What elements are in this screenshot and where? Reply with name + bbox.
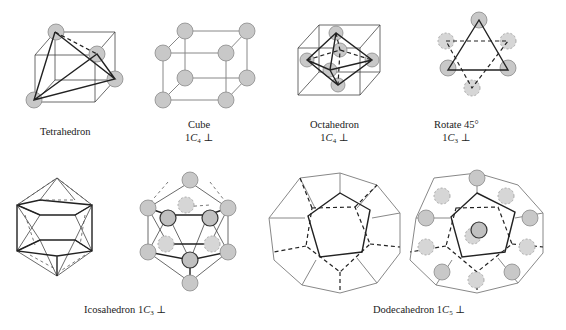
dodecahedron-diagram	[269, 173, 400, 293]
dodecahedron-label: Dodecahedron 1C5 ⊥	[373, 303, 465, 320]
symmetry-text: 1C3 ⊥	[434, 131, 479, 148]
tetrahedron-label: Tetrahedron	[40, 125, 91, 138]
octahedron-diagram	[298, 25, 380, 95]
icosahedron-diagram	[17, 178, 92, 276]
cube-diagram	[155, 23, 255, 108]
label-text: Tetrahedron	[40, 126, 91, 137]
rotated-octahedron-diagram	[438, 12, 516, 96]
cube-label: Cube 1C4 ⊥	[185, 118, 213, 148]
label-text: Cube	[185, 118, 213, 131]
dodecahedron-atoms-diagram	[410, 170, 543, 293]
rotate-label: Rotate 45° 1C3 ⊥	[434, 118, 479, 148]
label-text: Octahedron	[310, 118, 359, 131]
symmetry-text: 1C4 ⊥	[310, 131, 359, 148]
icosahedron-atoms-diagram	[140, 172, 236, 291]
symmetry-text: 1C4 ⊥	[185, 131, 213, 148]
tetrahedron-diagram	[26, 24, 123, 108]
icosahedron-label: Icosahedron 1C3 ⊥	[84, 303, 166, 320]
polyhedra-figure: .e{stroke:#222;stroke-width:1.4;fill:non…	[0, 0, 566, 330]
octahedron-label: Octahedron 1C4 ⊥	[310, 118, 359, 148]
label-text: Rotate 45°	[434, 118, 479, 131]
